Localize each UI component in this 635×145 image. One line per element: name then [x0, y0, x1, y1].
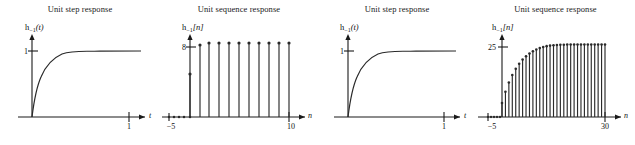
- step-response-curve: [348, 51, 456, 117]
- plot-canvas-unit-sequence-1: [160, 0, 318, 145]
- figure-row: Unit step response h−1(t) 1 1 t Unit seq…: [0, 0, 635, 145]
- panel-unit-step-2: Unit step response h−1(t) 1 1 t: [318, 0, 476, 145]
- plot-canvas-unit-step-2: [318, 0, 476, 145]
- plot-canvas-unit-sequence-2: [476, 0, 635, 145]
- panel-unit-step-1: Unit step response h−1(t) 1 1 t: [0, 0, 160, 145]
- panel-unit-sequence-2: Unit sequence response h−1[n] 25 −5 30 n: [476, 0, 635, 145]
- axes: [334, 34, 460, 122]
- axes: [18, 34, 145, 122]
- stem-group: [188, 41, 290, 117]
- plot-canvas-unit-step-1: [0, 0, 160, 145]
- axes: [162, 34, 305, 122]
- panel-unit-sequence-1: Unit sequence response h−1[n] 8 −5 10 n: [160, 0, 318, 145]
- step-response-curve: [32, 51, 141, 117]
- stem-group: [501, 43, 607, 117]
- zero-sample-dots: [487, 116, 501, 118]
